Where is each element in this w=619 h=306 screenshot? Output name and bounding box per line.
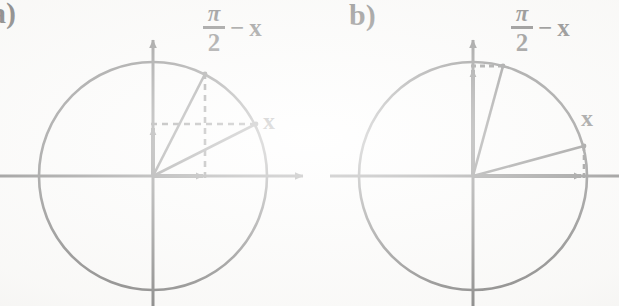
panel-a-angle-label: π 2 − x [203, 2, 262, 55]
panel-a-tag: a) [0, 0, 16, 28]
panel-b-radius-pi-over-2-minus-x [473, 66, 503, 176]
panel-b-radius-x [473, 146, 584, 176]
panel-a-point-complement [203, 72, 208, 77]
panel-a-point-x [254, 122, 259, 127]
panel-b-fraction-numerator: π [513, 2, 532, 26]
panel-b-fraction: π 2 [511, 2, 533, 55]
panel-b-angle-label: π 2 − x [511, 2, 570, 55]
panel-a-fraction: π 2 [203, 2, 225, 55]
panel-b-minus-operator: − [538, 15, 552, 40]
panel-a-fraction-numerator: π [205, 2, 224, 26]
figure-root: a) b) π 2 − x π 2 − x x x [0, 0, 619, 306]
panel-b-angle-variable: x [557, 15, 570, 40]
panel-b-fraction-denominator: 2 [513, 29, 532, 55]
panel-a-minus-operator: − [230, 15, 244, 40]
panel-a-point-x-label: x [263, 109, 275, 133]
panel-b-point-x-label: x [581, 106, 593, 130]
panel-b-point-complement [501, 64, 506, 69]
panel-a-fraction-denominator: 2 [205, 29, 224, 55]
panel-a-angle-variable: x [249, 15, 262, 40]
panel-b-group [330, 40, 619, 306]
panel-b-point-x [582, 144, 587, 149]
panel-b-tag: b) [349, 0, 376, 30]
panel-a-group [0, 40, 303, 306]
